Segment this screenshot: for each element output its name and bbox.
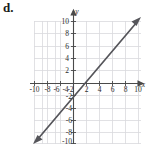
x-tick-label: 4 bbox=[98, 85, 102, 94]
x-tick-label: -6 bbox=[53, 85, 59, 94]
y-axis-label: y bbox=[74, 7, 79, 16]
y-tick-label: -4 bbox=[66, 104, 72, 113]
x-tick-label: 10 bbox=[134, 85, 142, 94]
y-tick-label: 6 bbox=[65, 42, 69, 51]
y-tick-label: -6 bbox=[66, 116, 72, 125]
y-tick-label: -10 bbox=[62, 137, 72, 144]
graph-figure: d. bbox=[0, 0, 148, 144]
x-tick-label: 2 bbox=[85, 85, 89, 94]
y-tick-label: 10 bbox=[62, 17, 70, 26]
x-tick-label: 6 bbox=[111, 85, 115, 94]
coordinate-plane: -10 -8 -6 -4 -2 2 4 6 8 10 10 8 6 4 2 -2… bbox=[0, 0, 148, 144]
y-tick-label: -2 bbox=[66, 92, 72, 101]
y-tick-labels: 10 8 6 4 2 -2 -4 -6 -8 -10 bbox=[62, 17, 73, 144]
x-tick-label: -8 bbox=[44, 85, 50, 94]
y-tick-label: 2 bbox=[65, 66, 69, 75]
y-tick-label: -8 bbox=[66, 128, 72, 137]
x-axis-label: x bbox=[141, 80, 146, 89]
x-tick-label: 8 bbox=[124, 85, 128, 94]
y-tick-label: 8 bbox=[65, 29, 69, 38]
x-tick-labels: -10 -8 -6 -4 -2 2 4 6 8 10 bbox=[30, 85, 143, 94]
y-tick-label: 4 bbox=[65, 54, 69, 63]
line-series-y-equals-x bbox=[33, 17, 141, 144]
x-tick-label: -10 bbox=[30, 85, 40, 94]
